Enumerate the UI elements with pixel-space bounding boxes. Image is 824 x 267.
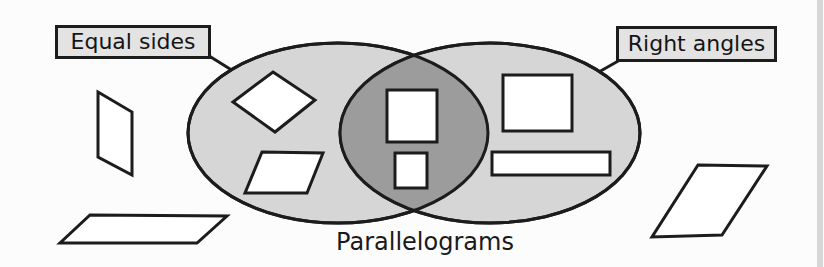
right-angles-label: Right angles xyxy=(628,33,765,55)
venn-diagram: Equal sides Right angles Parallelograms xyxy=(0,0,824,267)
narrow-slanted-parallelogram-shape xyxy=(98,92,132,175)
equal-sides-label: Equal sides xyxy=(71,31,196,53)
large-square-shape xyxy=(387,90,437,142)
equal-sides-label-box: Equal sides xyxy=(55,25,211,59)
near-square-rectangle-shape xyxy=(503,75,572,131)
page-edge-band xyxy=(817,0,823,267)
flat-parallelogram-shape xyxy=(60,215,227,243)
right-angles-label-box: Right angles xyxy=(616,26,777,62)
long-rectangle-shape xyxy=(492,152,610,175)
diagram-caption: Parallelograms xyxy=(310,228,540,256)
small-square-shape xyxy=(395,153,427,188)
slanted-parallelogram-shape xyxy=(652,165,767,237)
